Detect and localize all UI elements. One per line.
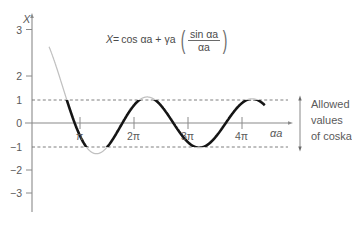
annotation-line-2: values: [311, 114, 343, 128]
y-axis-arrowhead: [30, 13, 34, 18]
y-axis-ticks: [26, 30, 32, 194]
x-axis-arrowhead: [288, 121, 293, 125]
equation-lhs: X: [106, 33, 113, 45]
x-tick-label-4pi: 4π: [235, 131, 248, 142]
equation-paren-open: (: [180, 30, 185, 51]
x-tick-label-2pi: 2π: [127, 131, 140, 142]
equation-plus: +: [155, 33, 161, 45]
x-tick-label-3pi: 3π: [181, 131, 194, 142]
y-tick-label-minus1: −1: [1, 142, 22, 153]
equation-denominator: αa: [188, 41, 220, 53]
equation: X=cos αa+γa(sin αaαa): [106, 28, 229, 53]
annotation-line-1: Allowed: [311, 98, 350, 112]
x-axis-label: αa: [270, 128, 282, 139]
y-tick-label-0: 0: [4, 118, 22, 129]
y-tick-label-2: 2: [4, 71, 22, 82]
equation-equals: =: [113, 33, 119, 45]
equation-fraction: sin αaαa: [188, 28, 220, 53]
equation-term1: cos αa: [121, 33, 152, 45]
y-tick-label-minus3: −3: [1, 188, 22, 199]
y-tick-label-minus2: −2: [1, 165, 22, 176]
equation-numerator: sin αa: [188, 28, 220, 41]
x-tick-label-pi: π: [76, 131, 83, 142]
equation-term2: γa: [164, 33, 175, 45]
y-tick-label-1: 1: [4, 95, 22, 106]
allowed-range-arrow: [298, 96, 301, 152]
equation-paren-close: ): [223, 30, 228, 51]
y-axis-label: X: [23, 14, 30, 25]
y-tick-label-3: 3: [4, 25, 22, 36]
annotation-line-3: of coska: [311, 130, 352, 144]
